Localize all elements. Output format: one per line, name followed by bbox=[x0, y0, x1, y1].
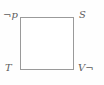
square-frame bbox=[20, 17, 74, 70]
diagram-canvas: ¬p S T V¬ bbox=[0, 0, 104, 85]
corner-label-top-right: S bbox=[79, 10, 86, 20]
corner-label-top-left: ¬p bbox=[3, 10, 18, 20]
corner-label-bottom-right: V¬ bbox=[78, 63, 94, 73]
corner-label-bottom-left: T bbox=[5, 63, 12, 73]
